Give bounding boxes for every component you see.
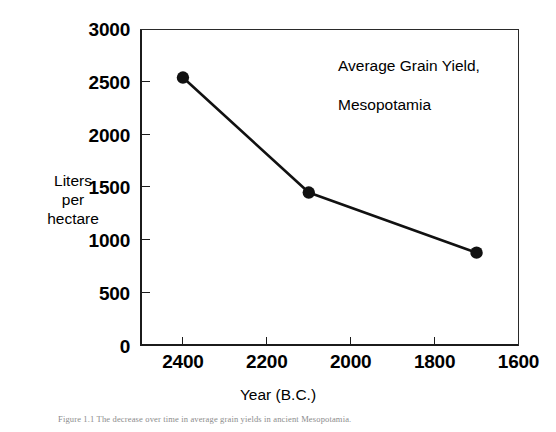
y-axis-tick: [141, 186, 150, 187]
figure-container: 050010001500200025003000 240022002000180…: [0, 0, 556, 432]
x-axis-tick-label: 2200: [222, 352, 312, 371]
y-axis-tick-label: 2500: [68, 73, 130, 92]
y-axis-tick-label: 0: [68, 337, 130, 356]
plot-frame-right-edge: [518, 29, 519, 346]
chart-title-line-2: Mesopotamia: [338, 95, 480, 115]
plot-frame-top-edge: [140, 29, 519, 30]
y-axis-tick-label: 500: [68, 284, 130, 303]
x-axis-tick: [434, 337, 435, 346]
figure-caption: Figure 1.1 The decrease over time in ave…: [58, 414, 528, 424]
chart-title-annotation: Average Grain Yield, Mesopotamia: [338, 36, 480, 135]
x-axis-tick-label: 2400: [138, 352, 228, 371]
y-axis-title-line-2: per: [20, 191, 126, 210]
y-axis-tick: [141, 292, 150, 293]
y-axis-tick: [141, 239, 150, 240]
x-axis-tick-label: 1800: [390, 352, 480, 371]
y-axis-tick-label: 3000: [68, 20, 130, 39]
y-axis-tick-label: 2000: [68, 126, 130, 145]
y-axis-tick: [141, 134, 150, 135]
y-axis-title-line-1: Liters: [20, 172, 126, 191]
x-axis-title: Year (B.C.): [0, 386, 556, 404]
y-axis-tick: [141, 81, 150, 82]
y-axis-tick-label: 1000: [68, 231, 130, 250]
y-axis-title-line-3: hectare: [20, 210, 126, 229]
x-axis-tick: [266, 337, 267, 346]
x-axis-tick-label: 2000: [306, 352, 396, 371]
x-axis-tick: [350, 337, 351, 346]
chart-title-line-1: Average Grain Yield,: [338, 56, 480, 76]
x-axis-tick: [182, 337, 183, 346]
x-axis-tick-label: 1600: [474, 352, 556, 371]
y-axis-title: Liters per hectare: [20, 172, 126, 229]
